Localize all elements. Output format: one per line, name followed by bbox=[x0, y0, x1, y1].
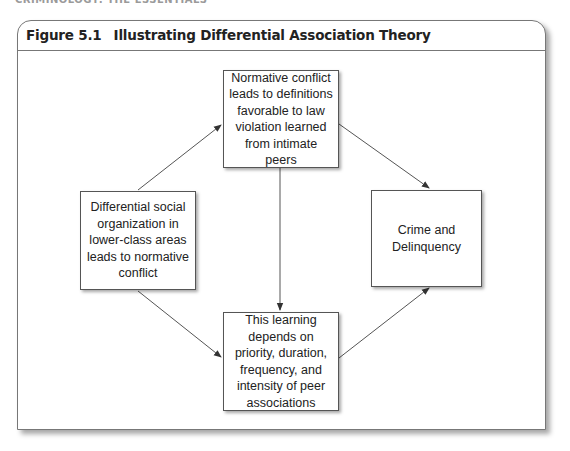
node-text: Normative conflict leads to definitions … bbox=[228, 70, 334, 169]
arrow-left-to-top bbox=[138, 125, 221, 190]
arrow-bottom-to-right bbox=[339, 288, 429, 358]
arrow-top-to-right bbox=[339, 124, 429, 188]
node-text: Differential social organization in lowe… bbox=[85, 199, 191, 282]
node-text: This learning depends on priority, durat… bbox=[228, 312, 334, 411]
node-text: Crime and Delinquency bbox=[387, 222, 467, 255]
arrow-left-to-bottom bbox=[138, 291, 221, 357]
node-normative-conflict: Normative conflict leads to definitions … bbox=[223, 70, 339, 168]
node-learning-depends: This learning depends on priority, durat… bbox=[223, 312, 339, 411]
node-differential-social-organization: Differential social organization in lowe… bbox=[80, 191, 196, 290]
diagram: Differential social organization in lowe… bbox=[0, 0, 570, 451]
node-crime-delinquency: Crime and Delinquency bbox=[371, 190, 482, 287]
